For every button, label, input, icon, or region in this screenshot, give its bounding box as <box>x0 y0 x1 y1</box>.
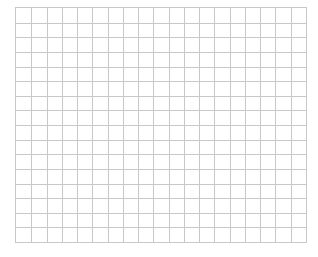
canvas <box>0 0 318 257</box>
grid-paper <box>15 7 307 243</box>
grid-lines <box>16 8 306 242</box>
